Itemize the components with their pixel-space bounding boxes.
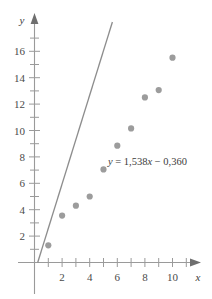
chart-canvas: 2 4 6 8 10 2 4 6 8 10 12 14 16 y x [0, 0, 212, 299]
x-tick-labels: 2 4 6 8 10 [59, 271, 178, 283]
data-point [73, 203, 79, 209]
x-axis-arrow-icon [190, 259, 201, 267]
x-tick-label-4: 4 [87, 271, 93, 283]
data-point [45, 242, 51, 248]
data-point [128, 125, 134, 131]
data-point [156, 87, 162, 93]
y-tick-labels: 2 4 6 8 10 12 14 16 [14, 45, 26, 242]
data-point [59, 213, 65, 219]
y-tick-label-8: 8 [20, 151, 26, 163]
x-axis-label: x [195, 271, 201, 283]
scatter-plot-figure: 2 4 6 8 10 2 4 6 8 10 12 14 16 y x [0, 0, 212, 299]
equation-slope: 1,538 [124, 156, 148, 167]
x-tick-label-10: 10 [167, 271, 179, 283]
data-point [114, 143, 120, 149]
data-point [169, 55, 175, 61]
y-axis-arrow-icon [31, 13, 39, 24]
y-tick-label-12: 12 [14, 98, 25, 110]
data-point [87, 193, 93, 199]
data-point [142, 94, 148, 100]
data-points-group [45, 55, 175, 249]
regression-equation: y = 1,538x − 0,360 [107, 156, 187, 167]
y-tick-label-4: 4 [20, 204, 26, 216]
y-tick-label-16: 16 [14, 45, 26, 57]
x-tick-label-8: 8 [142, 271, 148, 283]
x-tick-label-2: 2 [59, 271, 65, 283]
x-tick-label-6: 6 [115, 271, 121, 283]
y-tick-label-2: 2 [20, 230, 26, 242]
y-tick-label-6: 6 [20, 177, 26, 189]
equation-constant: 0,360 [163, 156, 187, 167]
y-axis-label: y [19, 14, 25, 26]
y-tick-label-14: 14 [14, 72, 26, 84]
regression-line [38, 22, 113, 263]
y-tick-label-10: 10 [14, 125, 26, 137]
data-point [100, 166, 106, 172]
